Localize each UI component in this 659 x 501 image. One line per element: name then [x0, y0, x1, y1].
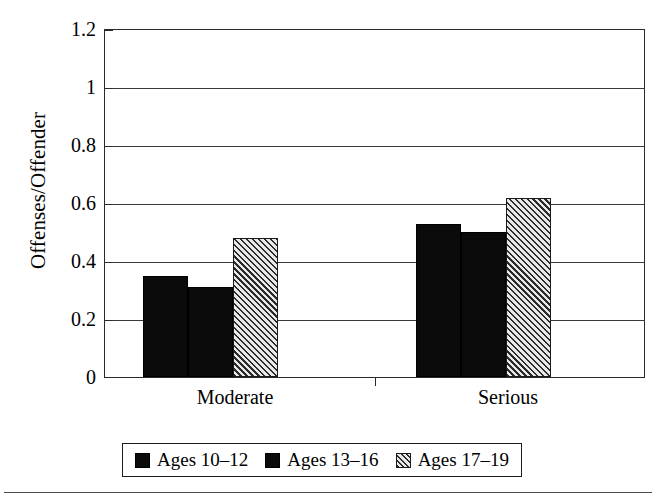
gridline-1 [105, 88, 644, 89]
y-tick-mark-0-8 [105, 146, 113, 147]
legend-item-ages-10-12: Ages 10–12 [135, 449, 248, 471]
x-axis-label-moderate: Moderate [145, 386, 325, 409]
bar-moderate-ages-13-16 [188, 287, 233, 377]
y-tick-label-0-2: 0.2 [38, 309, 96, 329]
legend-swatch-solid-icon [265, 453, 280, 468]
legend-item-ages-17-19: Ages 17–19 [396, 449, 509, 471]
legend-item-ages-13-16: Ages 13–16 [265, 449, 378, 471]
gridline-0-4 [105, 262, 644, 263]
legend-label-ages-17-19: Ages 17–19 [418, 449, 509, 471]
bar-chart-figure: Offenses/Offender 1.2 1 0.8 0.6 0.4 0.2 … [0, 0, 659, 501]
page-divider-rule [4, 492, 652, 493]
plot-area [104, 29, 645, 378]
legend-label-ages-13-16: Ages 13–16 [287, 449, 378, 471]
legend-swatch-hatch-icon [396, 453, 411, 468]
y-tick-mark-0-4 [105, 262, 113, 263]
y-tick-label-0-4: 0.4 [38, 251, 96, 271]
y-tick-mark-1 [105, 88, 113, 89]
y-tick-label-0-8: 0.8 [38, 135, 96, 155]
bar-serious-ages-13-16 [461, 232, 506, 377]
y-tick-mark-0 [105, 377, 113, 378]
legend-label-ages-10-12: Ages 10–12 [157, 449, 248, 471]
chart-legend: Ages 10–12 Ages 13–16 Ages 17–19 [122, 443, 522, 477]
y-tick-label-1: 1 [38, 77, 96, 97]
y-tick-mark-1-2 [105, 30, 113, 31]
bar-serious-ages-17-19 [506, 198, 551, 377]
bar-moderate-ages-17-19 [233, 238, 278, 377]
y-tick-label-1-2: 1.2 [38, 19, 96, 39]
x-axis-group-tick [375, 377, 376, 386]
y-tick-mark-0-2 [105, 320, 113, 321]
bar-moderate-ages-10-12 [143, 276, 188, 377]
legend-swatch-solid-icon [135, 453, 150, 468]
bar-serious-ages-10-12 [416, 224, 461, 377]
y-axis-title: Offenses/Offender [26, 61, 51, 321]
x-axis-label-serious: Serious [418, 386, 598, 409]
y-tick-mark-0-6 [105, 204, 113, 205]
y-tick-label-0: 0 [38, 367, 96, 387]
y-tick-label-0-6: 0.6 [38, 193, 96, 213]
gridline-0-6 [105, 204, 644, 205]
gridline-0-8 [105, 146, 644, 147]
